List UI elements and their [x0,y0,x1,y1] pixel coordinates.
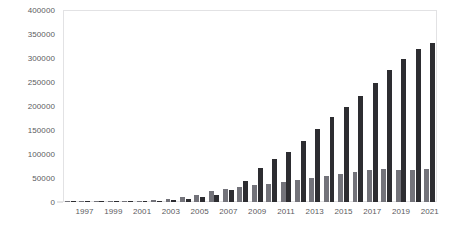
bar-group [65,10,76,202]
bar-group [79,10,90,202]
bar-series-2-2005 [200,197,205,202]
bar-series-2-2015 [344,107,349,202]
bar-group [381,10,392,202]
bar-group [266,10,277,202]
y-axis-tick-label: 200000 [28,102,55,111]
bar-group [209,10,220,202]
bar-series-2-2009 [258,168,263,202]
bar-series-1-2011 [281,182,286,202]
x-axis-tick-label: 2003 [162,207,180,216]
bar-series-1-2010 [266,184,271,202]
bar-series-2-2017 [373,83,378,202]
bar-group [324,10,335,202]
y-axis: 0500001000001500002000002500003000003500… [0,0,63,242]
bar-series-2-2003 [171,200,176,202]
chart-container: 0500001000001500002000002500003000003500… [0,0,459,242]
bar-series-1-2012 [295,180,300,202]
bar-series-1-2009 [252,185,257,202]
bar-series-2-2002 [157,201,162,202]
bar-series-1-2002 [151,200,156,202]
bar-group [295,10,306,202]
bar-series-2-2016 [358,96,363,202]
bar-group [353,10,364,202]
bar-series-2-2008 [243,181,248,202]
bar-series-2-2011 [286,152,291,202]
bar-series-1-2008 [237,187,242,202]
x-axis-tick-label: 2019 [392,207,410,216]
bar-group [180,10,191,202]
x-axis-tick-label: 2001 [133,207,151,216]
x-axis-tick-label: 2005 [191,207,209,216]
bar-series-2-2001 [143,201,148,202]
bar-series-2-2018 [387,70,392,202]
bar-series-1-2018 [381,169,386,202]
bar-group [237,10,248,202]
bar-group [223,10,234,202]
bar-series-1-2014 [324,176,329,202]
x-axis-tick-label: 2017 [363,207,381,216]
bar-series-1-2000 [122,201,127,202]
bar-series-2-2019 [401,59,406,202]
bar-series-2-1997 [85,201,90,202]
bar-group [338,10,349,202]
bar-series-2-2012 [301,141,306,202]
bar-series-1-2006 [209,191,214,202]
bar-group [108,10,119,202]
bar-series-2-2014 [330,117,335,202]
x-axis-tick-label: 1999 [104,207,122,216]
bar-series-2-2020 [416,49,421,202]
bar-group [122,10,133,202]
y-axis-tick-label: 350000 [28,30,55,39]
x-axis: 1997199920012003200520072009201120132015… [63,205,437,225]
y-axis-tick-label: 300000 [28,54,55,63]
bar-series-1-2004 [180,197,185,202]
bar-series-2-2010 [272,159,277,202]
x-axis-tick-label: 2015 [334,207,352,216]
bar-series-1-2007 [223,189,228,202]
x-axis-tick-label: 2013 [306,207,324,216]
bar-series-2-2021 [430,43,435,202]
bar-series-1-2019 [396,170,401,202]
x-axis-tick-label: 2009 [248,207,266,216]
bar-series-2-2004 [186,199,191,202]
x-axis-tick-label: 2011 [277,207,295,216]
bar-group [94,10,105,202]
x-axis-tick-label: 2007 [219,207,237,216]
x-axis-tick-label: 1997 [75,207,93,216]
y-axis-tick-label: 100000 [28,150,55,159]
bar-series-1-2016 [353,172,358,202]
bar-series-1-1996 [65,201,70,202]
bar-group [281,10,292,202]
bar-series-1-2003 [166,199,171,202]
bar-series-2-2006 [214,195,219,202]
bar-group [166,10,177,202]
y-axis-tick-label: 250000 [28,78,55,87]
bar-group [309,10,320,202]
y-axis-tick-label: 400000 [28,6,55,15]
y-axis-tick-label: 150000 [28,126,55,135]
bar-series-2-2000 [128,201,133,202]
bar-series-1-1997 [79,201,84,202]
bar-series-1-1998 [94,201,99,202]
bar-group [194,10,205,202]
bar-group [252,10,263,202]
bar-series-1-2020 [410,170,415,202]
bar-group [396,10,407,202]
y-axis-tick-label: 0 [50,198,55,207]
bar-series-2-1999 [114,201,119,202]
bar-series-2-1996 [71,201,76,202]
x-axis-tick-label: 2021 [421,207,439,216]
bar-series-2-1998 [99,201,104,202]
bar-group [424,10,435,202]
bar-group [151,10,162,202]
bar-series-2-2007 [229,190,234,202]
bar-series-layer [63,10,437,202]
bar-group [137,10,148,202]
bar-series-2-2013 [315,129,320,202]
bar-series-1-2015 [338,174,343,202]
bar-series-1-2001 [137,201,142,202]
bar-series-1-2021 [424,169,429,202]
bar-series-1-2013 [309,178,314,202]
y-axis-tick-label: 50000 [32,174,55,183]
bar-series-1-1999 [108,201,113,202]
